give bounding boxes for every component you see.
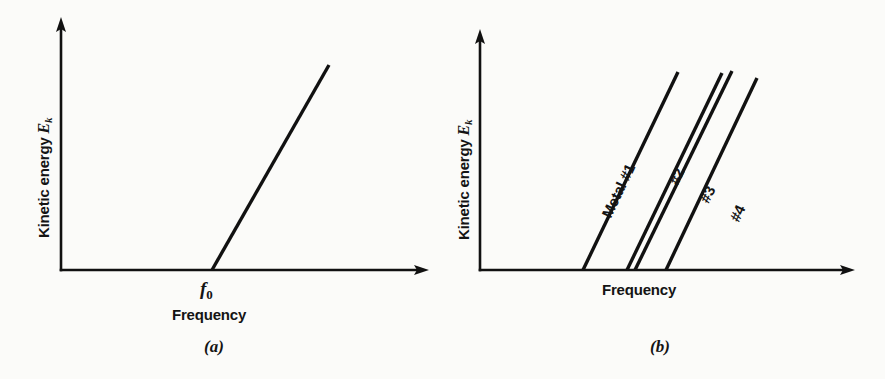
panel-b-y-axis-label-text: Kinetic energy (455, 135, 472, 240)
panel-a-y-axis-label-text: Kinetic energy (35, 133, 52, 238)
panel-b-caption: (b) (650, 337, 670, 357)
panel-a-x-axis-label: Frequency (172, 306, 246, 323)
panel-b-plot (443, 0, 885, 379)
panel-a-y-axis-label: Kinetic energy Ek (35, 118, 54, 238)
panel-a-y-axis-label-symbol: Ek (35, 118, 52, 134)
panel-a: Kinetic energy Ek f0 Frequency (a) (0, 0, 443, 379)
panel-a-threshold-label: f0 (200, 278, 212, 303)
photoelectric-effect-figure: Kinetic energy Ek f0 Frequency (a) Kinet… (0, 0, 885, 379)
panel-b: Kinetic energy Ek Metal #1 #2 #3 #4 Freq… (443, 0, 885, 379)
panel-a-y-axis-label-subscript: k (42, 118, 54, 123)
panel-b-x-axis-label: Frequency (602, 281, 676, 298)
panel-b-y-axis-label-symbol: Ek (455, 120, 472, 136)
panel-b-y-axis-label-subscript: k (462, 120, 474, 125)
panel-a-threshold-subscript: 0 (206, 287, 212, 302)
panel-a-data-line (212, 65, 329, 270)
panel-a-caption: (a) (204, 337, 224, 357)
panel-b-y-axis-label: Kinetic energy Ek (455, 120, 474, 240)
